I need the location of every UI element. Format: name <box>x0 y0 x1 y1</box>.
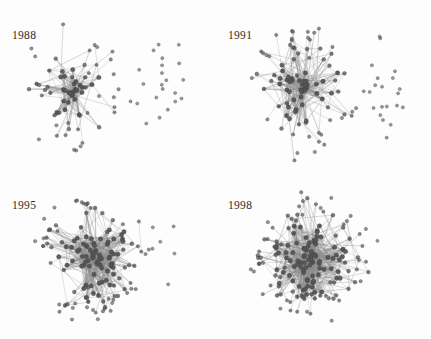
panel-1998: 1998 <box>216 170 431 339</box>
isolated-node <box>362 90 365 93</box>
isolated-node <box>160 71 163 74</box>
isolated-node <box>159 240 162 243</box>
isolated-node <box>174 91 177 94</box>
isolated-node <box>379 114 382 117</box>
isolated-node <box>160 64 163 67</box>
isolated-node <box>165 79 168 82</box>
isolated-node <box>376 77 379 80</box>
panel-1991: 1991 <box>216 0 431 169</box>
isolated-node <box>161 87 164 90</box>
isolated-node <box>138 68 141 71</box>
isolated-node <box>157 43 160 46</box>
isolated-node <box>397 92 400 95</box>
isolated-node <box>160 83 163 86</box>
graph-nodes <box>250 27 404 162</box>
isolated-node <box>368 90 371 93</box>
isolated-node <box>161 57 164 60</box>
isolated-node <box>174 100 177 103</box>
network-graph-1991 <box>216 0 431 169</box>
isolated-node <box>155 96 158 99</box>
isolated-node <box>401 106 404 109</box>
isolated-node <box>182 78 185 81</box>
isolated-node <box>381 118 384 121</box>
isolated-node <box>393 70 396 73</box>
network-graph-1998 <box>216 170 431 339</box>
year-label-1995: 1995 <box>12 200 36 212</box>
isolated-node <box>376 239 379 242</box>
isolated-node <box>389 123 392 126</box>
isolated-node <box>370 64 373 67</box>
isolated-node <box>372 106 375 109</box>
year-label-1991: 1991 <box>228 30 252 42</box>
isolated-node <box>180 97 183 100</box>
isolated-node <box>380 105 383 108</box>
year-label-1988: 1988 <box>12 30 36 42</box>
isolated-node <box>142 82 145 85</box>
panel-1995: 1995 <box>0 170 215 339</box>
isolated-node <box>152 49 155 52</box>
isolated-node <box>136 102 139 105</box>
isolated-node <box>151 226 154 229</box>
graph-edges <box>29 24 115 143</box>
isolated-node <box>379 37 382 40</box>
isolated-node <box>391 76 394 79</box>
isolated-node <box>158 116 161 119</box>
network-graph-1995 <box>0 170 215 339</box>
isolated-node <box>374 84 377 87</box>
isolated-node <box>129 100 132 103</box>
isolated-node <box>151 247 154 250</box>
figure-network-evolution: 1988 1991 1995 1998 <box>0 0 431 339</box>
isolated-node <box>177 43 180 46</box>
isolated-node <box>381 85 384 88</box>
isolated-node <box>172 225 175 228</box>
isolated-node <box>178 62 181 65</box>
isolated-node <box>167 283 170 286</box>
year-label-1998: 1998 <box>228 200 252 212</box>
isolated-node <box>398 87 401 90</box>
panel-1988: 1988 <box>0 0 215 169</box>
isolated-node <box>173 252 176 255</box>
isolated-node <box>145 122 148 125</box>
graph-edges <box>252 29 352 161</box>
isolated-node <box>385 105 388 108</box>
isolated-node <box>385 136 388 139</box>
isolated-node <box>166 108 169 111</box>
network-graph-1988 <box>0 0 215 169</box>
isolated-node <box>395 104 398 107</box>
